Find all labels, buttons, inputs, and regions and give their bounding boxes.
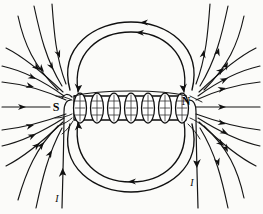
coil-turn <box>159 93 172 123</box>
coil-turn <box>125 93 138 123</box>
south-pole-label: S <box>53 100 60 114</box>
north-pole-label: N <box>182 94 191 108</box>
field-diagram-canvas: S N I I <box>0 0 263 214</box>
coil-turn <box>142 93 155 123</box>
right-field-fan <box>196 4 260 208</box>
solenoid-field-figure: S N I I <box>0 0 263 214</box>
current-label-left: I <box>54 193 59 204</box>
solenoid-coil <box>74 91 189 123</box>
coil-turn <box>91 93 104 123</box>
top-field-loops <box>68 19 194 92</box>
coil-turn <box>74 93 87 123</box>
coil-turn <box>108 93 121 123</box>
bottom-field-loops <box>68 122 194 192</box>
current-label-right: I <box>189 177 194 188</box>
